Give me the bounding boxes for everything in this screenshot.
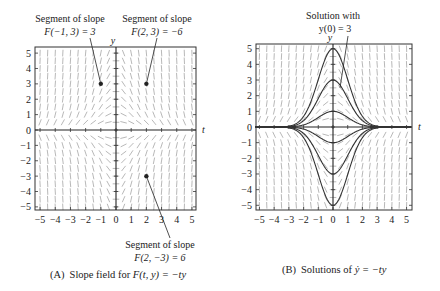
y-tick-label: −5 xyxy=(20,201,31,212)
y-tick-label: −3 xyxy=(20,171,31,182)
t-axis-label: t xyxy=(418,121,421,132)
panel-b-solutions: −5−4−3−2−1012345543210−1−2−3−4−5ty xyxy=(241,32,421,225)
x-tick-label: −2 xyxy=(298,214,309,225)
leader-line xyxy=(146,176,170,238)
x-tick-label: −2 xyxy=(80,214,91,225)
leader-line xyxy=(146,38,157,84)
x-tick-label: 4 xyxy=(174,214,179,225)
annotation-a3-line1: Segment of slope xyxy=(125,239,195,250)
y-tick-label: 2 xyxy=(247,90,252,101)
x-tick-label: −4 xyxy=(50,214,61,225)
annotation-a3-line2: F(2, −3) = 6 xyxy=(133,252,185,264)
t-axis-label: t xyxy=(202,124,205,135)
x-tick-label: 0 xyxy=(331,214,336,225)
x-tick-label: −1 xyxy=(313,214,324,225)
x-tick-label: 2 xyxy=(144,214,149,225)
y-tick-label: 1 xyxy=(247,106,252,117)
y-tick-label: −2 xyxy=(241,153,252,164)
highlighted-point xyxy=(144,174,148,178)
y-axis-label: y xyxy=(110,35,116,46)
annotation-a1-line2: F(−1, 3) = 3 xyxy=(43,26,95,38)
y-tick-label: 3 xyxy=(247,75,252,86)
x-tick-label: 5 xyxy=(404,214,409,225)
y-tick-label: 0 xyxy=(26,125,31,136)
y-tick-label: 3 xyxy=(26,78,31,89)
annotation-b-line2: y(0) = 3 xyxy=(319,23,351,35)
y-tick-label: −3 xyxy=(241,168,252,179)
figure-canvas: −5−4−3−2−1012345543210−1−2−3−4−5ty −5−4−… xyxy=(0,0,440,291)
annotation-b-line1: Solution with xyxy=(306,10,360,21)
x-tick-label: 0 xyxy=(114,214,119,225)
y-tick-label: 4 xyxy=(26,63,31,74)
y-tick-label: −2 xyxy=(20,155,31,166)
y-tick-label: −5 xyxy=(241,200,252,211)
x-tick-label: −1 xyxy=(95,214,106,225)
highlighted-point xyxy=(99,82,103,86)
panel-a-slope-field: −5−4−3−2−1012345543210−1−2−3−4−5ty xyxy=(20,35,205,238)
x-tick-label: −3 xyxy=(284,214,295,225)
y-tick-label: 1 xyxy=(26,109,31,120)
annotation-a1-line1: Segment of slope xyxy=(35,13,105,24)
highlighted-point xyxy=(144,82,148,86)
x-tick-label: 4 xyxy=(389,214,394,225)
y-tick-label: 2 xyxy=(26,94,31,105)
y-tick-label: −1 xyxy=(20,140,31,151)
annotation-a2-line2: F(2, 3) = −6 xyxy=(130,26,182,38)
leader-line xyxy=(90,38,101,84)
y-tick-label: −1 xyxy=(241,137,252,148)
x-tick-label: 1 xyxy=(345,214,350,225)
y-tick-label: 0 xyxy=(247,122,252,133)
annotation-a2-line1: Segment of slope xyxy=(122,13,192,24)
x-tick-label: 3 xyxy=(375,214,380,225)
x-tick-label: 1 xyxy=(129,214,134,225)
x-tick-label: 5 xyxy=(189,214,194,225)
caption-a: (A)Slope field for F(t, y) = −ty xyxy=(50,269,186,281)
x-tick-label: −5 xyxy=(35,214,46,225)
y-tick-label: 5 xyxy=(247,43,252,54)
y-tick-label: −4 xyxy=(241,184,252,195)
y-tick-label: −4 xyxy=(20,186,31,197)
y-tick-label: 5 xyxy=(26,48,31,59)
y-tick-label: 4 xyxy=(247,59,252,70)
caption-b: (B)Solutions of ẏ = −ty xyxy=(282,264,387,276)
x-tick-label: −5 xyxy=(254,214,265,225)
x-tick-label: −4 xyxy=(269,214,280,225)
x-tick-label: 2 xyxy=(360,214,365,225)
x-tick-label: −3 xyxy=(65,214,76,225)
